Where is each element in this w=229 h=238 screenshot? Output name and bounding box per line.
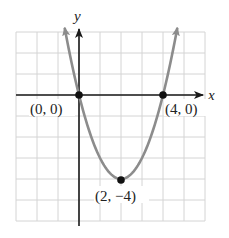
y-axis-label: y (72, 8, 81, 24)
point-origin (75, 91, 83, 99)
parabola-graph: x y (0, 0) (4, 0) (2, −4) (0, 0, 229, 238)
point-vertex (117, 176, 125, 184)
point-label-origin: (0, 0) (30, 101, 63, 118)
point-x-intercept (159, 91, 167, 99)
point-label-vertex: (2, −4) (95, 188, 136, 205)
point-label-x-intercept: (4, 0) (165, 101, 198, 118)
